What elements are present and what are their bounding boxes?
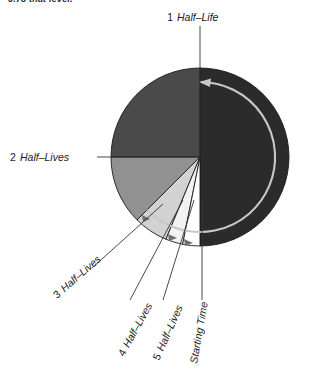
label-5-half-lives-number: 5 (150, 351, 163, 361)
label-5-half-lives: Half–Lives (154, 302, 185, 352)
half-life-diagram-svg: 1 Half–Life 2 Half–Lives 3 Half–Lives 4 … (0, 0, 311, 372)
label-4-half-lives: Half–Lives (120, 300, 155, 349)
label-3-half-lives-group: 3 Half–Lives (50, 252, 103, 300)
label-1-half-life-number: 1 (167, 11, 173, 23)
label-2-half-lives-number: 2 (10, 151, 16, 163)
label-4-half-lives-number: 4 (115, 347, 128, 358)
label-starting-time: Starting Time (187, 301, 210, 365)
label-3-half-lives: Half–Lives (58, 252, 103, 294)
label-1-half-life: Half–Life (177, 11, 219, 23)
label-2-half-lives: Half–Lives (20, 151, 70, 163)
half-life-pie-figure: 0.78 that level. (0, 0, 311, 372)
pie-slice-2-half-lives (111, 68, 200, 157)
label-starting-time-group: Starting Time (187, 301, 210, 365)
label-5-half-lives-group: 5 Half–Lives (150, 302, 185, 361)
label-4-half-lives-group: 4 Half–Lives (115, 300, 154, 358)
